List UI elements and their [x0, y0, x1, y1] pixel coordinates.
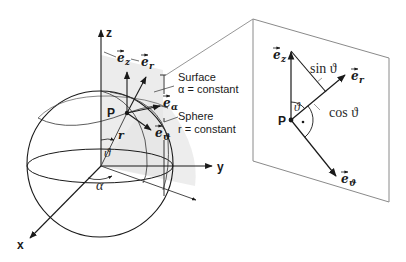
spherical-coordinates-diagram: z y x r ϑ α P e z	[0, 0, 406, 262]
detail-point-p-label: P	[278, 114, 286, 128]
detail-panel: ϑ P sin ϑ cos ϑ e z e r e ϑ	[253, 19, 389, 202]
e-r-label: e r	[141, 55, 155, 71]
detail-point-p	[289, 118, 294, 123]
surface-annotation-line1: Surface	[178, 71, 216, 83]
e-alpha-label: e α	[163, 96, 178, 112]
svg-text:ϑ: ϑ	[163, 132, 171, 142]
polar-angle-label: ϑ	[104, 145, 111, 160]
detail-sin-label: sin ϑ	[310, 61, 337, 76]
svg-text:e: e	[141, 55, 149, 69]
point-p-label: P	[107, 106, 115, 120]
svg-text:e: e	[273, 48, 281, 62]
y-axis-label: y	[217, 160, 224, 174]
svg-text:e: e	[117, 51, 125, 65]
sphere-annotation-line2: r = constant	[178, 123, 236, 135]
sphere-view: z y x r ϑ α P e z	[17, 19, 253, 252]
svg-text:e: e	[163, 96, 171, 110]
sphere-annotation-line1: Sphere	[178, 110, 213, 122]
e-z-label: e z	[117, 51, 131, 67]
svg-text:e: e	[155, 126, 163, 140]
svg-text:ϑ: ϑ	[349, 178, 357, 188]
detail-leader-line	[166, 19, 253, 75]
x-axis	[30, 166, 101, 238]
detail-cos-label: cos ϑ	[329, 105, 358, 120]
detail-panel-frame	[253, 19, 389, 202]
svg-text:e: e	[341, 172, 349, 186]
x-axis-label: x	[17, 238, 24, 252]
z-axis-label: z	[106, 26, 112, 40]
svg-text:α: α	[171, 102, 178, 112]
surface-annotation-line2: α = constant	[178, 83, 238, 95]
svg-text:e: e	[351, 69, 359, 83]
svg-text:z: z	[280, 54, 287, 64]
azimuth-label: α	[96, 178, 104, 193]
detail-right-angle-dot	[302, 121, 305, 124]
svg-text:z: z	[124, 57, 131, 67]
